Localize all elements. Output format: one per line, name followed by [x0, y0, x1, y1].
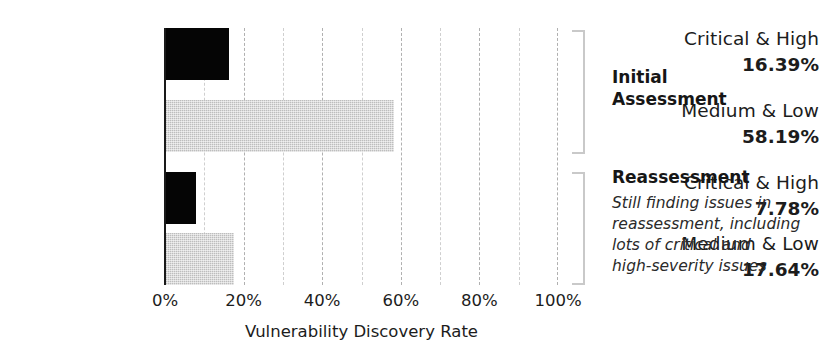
bracket-initial-assessment — [572, 30, 585, 154]
gridline-30 — [283, 28, 284, 285]
annotation-title-reassessment: Reassessment — [612, 166, 817, 188]
annotation-note-reassessment: Still finding issues in reassessment, in… — [612, 193, 817, 277]
xtick-40: 40% — [287, 291, 357, 310]
annotation-initial-assessment: Initial Assessment — [612, 66, 817, 111]
chart-figure: Critical & High 16.39% Medium & Low 58.1… — [0, 0, 819, 357]
gridline-50 — [362, 28, 363, 285]
xtick-0: 0% — [130, 291, 200, 310]
category-value-1: 58.19% — [661, 128, 819, 147]
category-name-0: Critical & High — [661, 30, 819, 49]
xtick-20: 20% — [209, 291, 279, 310]
bracket-reassessment — [572, 172, 585, 285]
bar-medium-low-reassess — [165, 233, 234, 285]
gridline-70 — [440, 28, 441, 285]
gridline-80 — [479, 28, 480, 285]
annotation-title-initial: Initial Assessment — [612, 66, 817, 111]
gridline-100 — [557, 28, 558, 285]
gridline-20 — [244, 28, 245, 285]
xtick-60: 60% — [366, 291, 436, 310]
plot-area — [165, 28, 558, 285]
xtick-100: 100% — [523, 291, 593, 310]
xtick-80: 80% — [444, 291, 514, 310]
gridline-40 — [322, 28, 323, 285]
x-axis-label: Vulnerability Discovery Rate — [165, 322, 558, 341]
bar-critical-high-initial — [165, 28, 229, 80]
bar-medium-low-initial — [165, 100, 394, 152]
annotation-reassessment: Reassessment Still finding issues in rea… — [612, 166, 817, 277]
gridline-90 — [519, 28, 520, 285]
y-axis-line — [164, 28, 166, 285]
bar-critical-high-reassess — [165, 172, 196, 224]
gridline-60 — [401, 28, 402, 285]
